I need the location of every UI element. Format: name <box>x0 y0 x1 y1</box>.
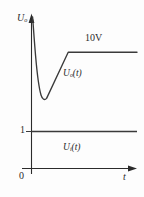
output-curve-label: Uo(t) <box>63 69 82 79</box>
output-response-path <box>33 17 137 100</box>
output-curve-label-main: U <box>63 68 70 78</box>
output-series-uo <box>33 17 137 100</box>
y-axis-label: Uo <box>17 13 27 24</box>
x-axis <box>22 166 137 172</box>
plateau-voltage-label: 10V <box>85 33 102 43</box>
figure-container: Uo 10V Uo(t) 1 Ui(t) 0 t <box>0 0 144 197</box>
y-axis-label-subscript: o <box>24 16 27 23</box>
x-axis-label: t <box>123 172 126 182</box>
origin-label: 0 <box>19 171 24 181</box>
x-axis-arrowhead <box>128 166 137 172</box>
output-curve-label-argument: (t) <box>73 68 82 78</box>
input-curve-label-argument: (t) <box>72 142 81 152</box>
chart-plot-area <box>0 0 144 197</box>
input-curve-label: Ui(t) <box>63 143 80 153</box>
input-curve-label-main: U <box>63 142 70 152</box>
y-tick-label-one: 1 <box>20 125 25 135</box>
